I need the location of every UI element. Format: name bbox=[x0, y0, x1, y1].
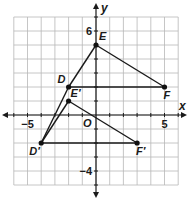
labels: DEFD′E′F′xyO−556−4 bbox=[21, 1, 187, 177]
point-label-Dp: D′ bbox=[29, 145, 41, 157]
segment-E-F bbox=[96, 45, 165, 87]
point-label-Ep: E′ bbox=[71, 87, 82, 99]
origin-label: O bbox=[83, 117, 92, 129]
triangle-segments bbox=[41, 45, 164, 143]
x-axis-left-arrow-icon bbox=[2, 112, 8, 118]
x-tick-label: −5 bbox=[21, 118, 34, 130]
axes bbox=[2, 3, 187, 198]
graph-canvas: DEFD′E′F′xyO−556−4 bbox=[0, 0, 189, 199]
point-label-D: D bbox=[58, 73, 66, 85]
point-Ep bbox=[66, 98, 71, 103]
y-axis-down-arrow-icon bbox=[93, 192, 99, 198]
vertex-points bbox=[39, 42, 167, 145]
point-label-F: F bbox=[164, 89, 171, 101]
point-E bbox=[93, 42, 98, 47]
y-tick-label: 6 bbox=[86, 25, 92, 37]
x-tick-label: 5 bbox=[161, 118, 167, 130]
y-tick-label: −4 bbox=[79, 165, 92, 177]
coordinate-grid-diagram: DEFD′E′F′xyO−556−4 x y O bbox=[0, 0, 189, 199]
segment-Ep-Fp bbox=[69, 101, 138, 143]
y-axis-up-arrow-icon bbox=[93, 3, 99, 9]
point-label-Fp: F′ bbox=[136, 145, 147, 157]
y-axis-label: y bbox=[100, 1, 109, 15]
point-label-E: E bbox=[99, 30, 107, 42]
x-axis-label: x bbox=[178, 99, 187, 113]
